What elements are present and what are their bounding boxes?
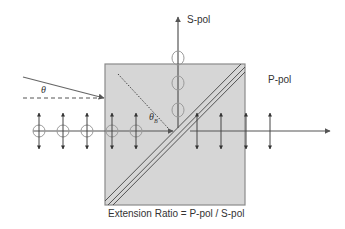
theta-b-label: θB bbox=[149, 111, 158, 124]
polarizer-diagram bbox=[0, 0, 345, 229]
theta-label: θ bbox=[41, 84, 46, 95]
s-pol-label: S-pol bbox=[187, 14, 210, 25]
caption: Extension Ratio = P-pol / S-pol bbox=[108, 208, 244, 219]
incident-ray bbox=[23, 77, 104, 98]
p-pol-label: P-pol bbox=[268, 74, 291, 85]
beam-splitter-cube bbox=[105, 64, 245, 205]
theta-b-subscript: B bbox=[154, 118, 158, 124]
